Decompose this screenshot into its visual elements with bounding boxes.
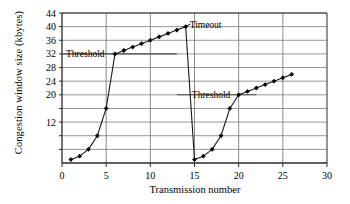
data-point bbox=[68, 157, 73, 162]
data-point bbox=[192, 157, 197, 162]
data-point bbox=[174, 28, 179, 33]
y-tick-label: 40 bbox=[46, 21, 56, 32]
data-point bbox=[148, 38, 153, 43]
timeout-annotation: Timeout bbox=[190, 20, 222, 30]
x-tick-label: 30 bbox=[322, 170, 332, 181]
data-point bbox=[104, 106, 109, 111]
x-tick-label: 20 bbox=[234, 170, 244, 181]
x-tick-label: 0 bbox=[60, 170, 65, 181]
data-point bbox=[183, 24, 188, 29]
x-tick-label: 5 bbox=[104, 170, 109, 181]
data-point bbox=[272, 79, 277, 84]
y-tick-label: 28 bbox=[46, 62, 56, 73]
data-point bbox=[130, 45, 135, 50]
threshold-annotation: Threshold bbox=[192, 90, 231, 100]
y-tick-label: 36 bbox=[46, 35, 56, 46]
data-point bbox=[254, 86, 259, 91]
x-tick-label: 25 bbox=[278, 170, 288, 181]
x-tick-label: 15 bbox=[190, 170, 200, 181]
data-point bbox=[263, 82, 268, 87]
chart-figure: Congestion window size (kbytes) 12202428… bbox=[0, 0, 350, 204]
data-point bbox=[139, 41, 144, 46]
y-tick-label: 24 bbox=[46, 76, 56, 87]
threshold-annotation: Threshold bbox=[66, 49, 105, 59]
data-point bbox=[280, 75, 285, 80]
y-tick-label: 32 bbox=[46, 48, 56, 59]
plot-area: 1220242832364044051015202530ThresholdTim… bbox=[0, 0, 350, 204]
data-line bbox=[71, 27, 292, 160]
y-tick-label: 44 bbox=[46, 8, 56, 19]
x-axis-label: Transmission number bbox=[62, 184, 328, 195]
data-point bbox=[245, 89, 250, 94]
data-point bbox=[166, 31, 171, 36]
y-tick-label: 12 bbox=[46, 117, 56, 128]
x-tick-label: 10 bbox=[145, 170, 155, 181]
data-point bbox=[157, 34, 162, 39]
data-point bbox=[289, 72, 294, 77]
data-point bbox=[121, 48, 126, 53]
data-point bbox=[113, 52, 118, 57]
y-tick-label: 20 bbox=[46, 89, 56, 100]
